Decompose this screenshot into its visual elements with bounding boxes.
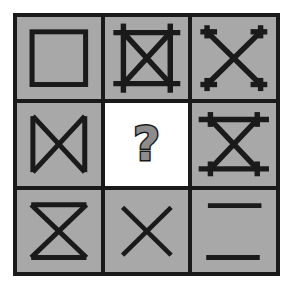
puzzle-root: ?: [0, 0, 293, 288]
x-with-corner-serifs-icon: [192, 17, 276, 99]
x-only-icon: [105, 190, 189, 272]
matrix-cell-1[interactable]: [17, 17, 101, 99]
bowtie-vertical-sides-icon: [17, 103, 101, 185]
matrix-cell-7[interactable]: [17, 190, 101, 272]
two-horizontal-lines-icon: [192, 190, 276, 272]
hourglass-icon: [17, 190, 101, 272]
matrix-grid: ?: [13, 13, 280, 276]
square-with-x-and-overhang-icon: [105, 17, 189, 99]
matrix-cell-6[interactable]: [192, 103, 276, 185]
matrix-cell-3[interactable]: [192, 17, 276, 99]
square-outline-icon: [17, 17, 101, 99]
question-mark-wrap: ?: [105, 103, 189, 185]
matrix-cell-8[interactable]: [105, 190, 189, 272]
matrix-cell-4[interactable]: [17, 103, 101, 185]
hourglass-with-overhang-icon: [192, 103, 276, 185]
matrix-cell-2[interactable]: [105, 17, 189, 99]
question-mark-icon: ?: [133, 121, 160, 167]
matrix-cell-9[interactable]: [192, 190, 276, 272]
matrix-cell-5-missing[interactable]: ?: [105, 103, 189, 185]
